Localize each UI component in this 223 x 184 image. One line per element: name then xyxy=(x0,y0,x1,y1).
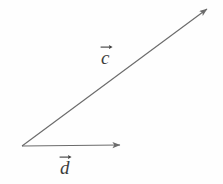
vector-d-overarrow-icon xyxy=(59,153,72,159)
vector-c-label-text: c xyxy=(101,47,109,68)
vector-d-line xyxy=(22,145,120,146)
vector-c-line xyxy=(22,9,207,146)
vector-d-label-text: d xyxy=(60,157,70,178)
vector-drawing-canvas xyxy=(0,0,223,184)
vector-diagram-figure: c d xyxy=(0,0,223,184)
vector-d-label: d xyxy=(60,153,70,177)
vector-c-label: c xyxy=(101,43,109,67)
vector-c-overarrow-icon xyxy=(100,43,113,49)
